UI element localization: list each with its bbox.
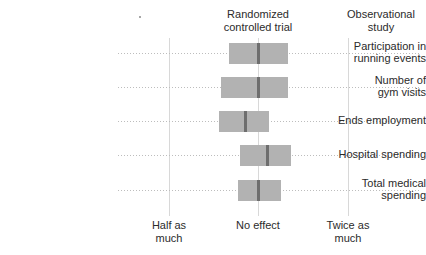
median-marker — [257, 180, 260, 201]
x-axis-tick-twice-as-much: Twice as much — [303, 219, 393, 244]
x-axis-tick-half-as-much: Half as much — [124, 219, 214, 244]
median-marker — [266, 145, 269, 166]
row-label-2: Ends employment — [308, 114, 426, 127]
chart-container: Randomized controlled trial Observationa… — [0, 0, 426, 255]
row-label-1: Number of gym visits — [308, 74, 426, 99]
row-label-3: Hospital spending — [308, 148, 426, 161]
x-axis-tick-no-effect: No effect — [213, 219, 303, 232]
row-label-0: Participation in running events — [308, 40, 426, 65]
plot-area — [0, 0, 426, 255]
median-marker — [257, 77, 260, 98]
median-marker — [257, 43, 260, 64]
range-bar — [221, 77, 288, 98]
median-marker — [244, 111, 247, 132]
row-label-4: Total medical spending — [308, 177, 426, 202]
